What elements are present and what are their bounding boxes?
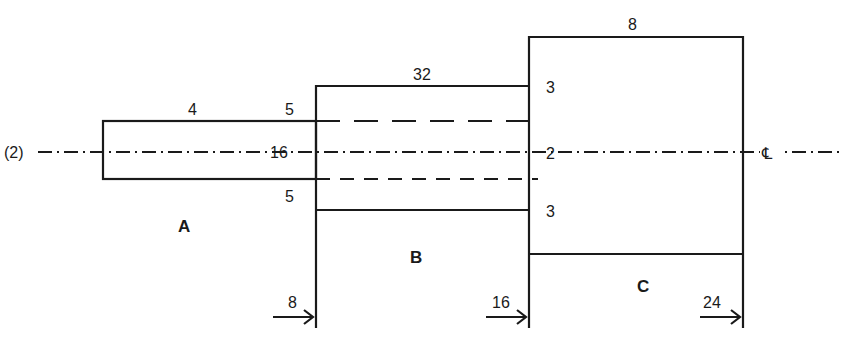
section-a-inner-label: 16 (270, 144, 288, 161)
section-c-bottom-offset: 3 (546, 203, 555, 220)
section-b-length-label: 32 (413, 66, 431, 83)
section-c-outline (529, 37, 743, 328)
section-b-top-offset: 5 (285, 101, 294, 118)
arrow-icon-8 (273, 310, 313, 324)
section-c-center-label: 2 (546, 145, 555, 162)
centerline-left-label: (2) (4, 144, 24, 161)
section-c-top-offset: 3 (546, 79, 555, 96)
arrow-icon-16 (486, 310, 526, 324)
shaft-diagram: (2) ℄ 4 16 A 32 5 5 B 8 3 2 3 C 8 16 24 (0, 0, 850, 348)
section-b-label: B (410, 248, 422, 267)
position-marker-24: 24 (703, 294, 721, 311)
position-marker-16: 16 (492, 294, 510, 311)
centerline-symbol: ℄ (761, 145, 773, 162)
arrow-icon-24 (700, 310, 740, 324)
section-b-top-left-edge (316, 86, 529, 328)
section-c-length-label: 8 (628, 16, 637, 33)
section-b-bottom-offset: 5 (285, 188, 294, 205)
section-a-label: A (178, 217, 190, 236)
section-a-length-label: 4 (188, 101, 197, 118)
section-c-label: C (637, 277, 649, 296)
position-marker-8: 8 (288, 294, 297, 311)
